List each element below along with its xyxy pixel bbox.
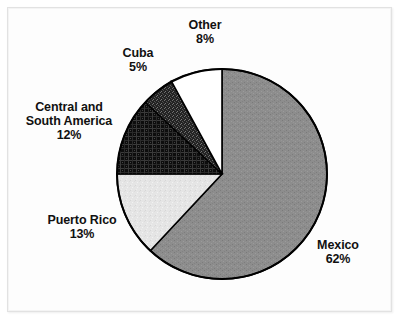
pie-label-other-value: 8% <box>170 32 240 46</box>
chart-page: Other 8% Cuba 5% Central and South Ameri… <box>0 0 403 323</box>
pie-label-csa-line2: South America <box>26 114 112 128</box>
pie-label-cuba-value: 5% <box>104 60 172 74</box>
pie-label-central-south-america: Central and South America 12% <box>8 100 130 142</box>
pie-label-cuba: Cuba 5% <box>104 46 172 74</box>
pie-label-mexico-name: Mexico <box>317 238 359 252</box>
pie-label-puerto-rico-name: Puerto Rico <box>47 213 116 227</box>
pie-label-csa-line1: Central and <box>35 100 103 114</box>
pie-label-puerto-rico: Puerto Rico 13% <box>30 213 134 241</box>
pie-label-mexico: Mexico 62% <box>300 238 376 266</box>
pie-label-puerto-rico-value: 13% <box>30 227 134 241</box>
pie-label-cuba-name: Cuba <box>123 46 154 60</box>
pie-label-csa-value: 12% <box>8 128 130 142</box>
pie-label-other-name: Other <box>189 18 222 32</box>
pie-chart <box>0 0 403 323</box>
pie-label-other: Other 8% <box>170 18 240 46</box>
pie-label-mexico-value: 62% <box>300 252 376 266</box>
